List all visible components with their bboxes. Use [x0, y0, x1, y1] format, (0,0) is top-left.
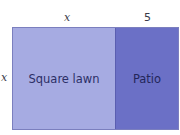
dimension-label-patio-width: 5 — [144, 12, 151, 23]
dimension-label-lawn-width: x — [64, 12, 70, 23]
dimension-label-height: x — [1, 72, 7, 83]
square-lawn-region: Square lawn — [13, 28, 116, 129]
square-lawn-label: Square lawn — [28, 72, 99, 86]
patio-label: Patio — [133, 72, 161, 86]
patio-region: Patio — [116, 28, 178, 129]
garden-rectangle-diagram: Square lawn Patio — [12, 27, 179, 130]
